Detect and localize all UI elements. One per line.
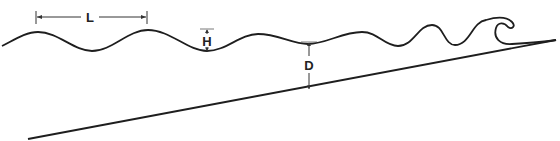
l-left-arrowhead-icon (37, 15, 42, 19)
sea-floor-line (28, 40, 556, 139)
h-top-arrowhead-icon (205, 30, 209, 34)
wave-diagram: L H D (0, 0, 560, 141)
wavelength-label: L (86, 10, 94, 25)
wavelength-dimension: L (36, 10, 147, 25)
water-depth-dimension: D (301, 42, 317, 89)
wave-height-dimension: H (200, 29, 214, 51)
wave-height-label: H (202, 34, 211, 49)
l-right-arrowhead-icon (141, 15, 146, 19)
water-depth-label: D (304, 58, 313, 73)
